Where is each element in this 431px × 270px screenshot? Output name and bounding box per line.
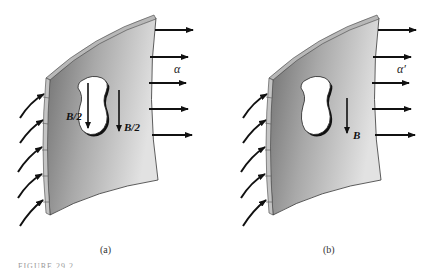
figure-caption-cropped: FIGURE 29.2 ... <box>18 262 268 268</box>
panel-b: B α′ <box>241 15 416 226</box>
hole-a <box>78 76 109 136</box>
panel-a: B/2 B/2 α <box>18 15 193 226</box>
hole-arrow-label: B/2 <box>65 110 82 122</box>
flux-label: α′ <box>397 62 406 76</box>
hole-b <box>301 76 332 136</box>
panel-a-caption: (a) <box>100 244 111 255</box>
flux-label: α <box>174 62 181 76</box>
figure-canvas: B/2 B/2 α B α′ <box>0 0 431 270</box>
sheet-arrow-label: B <box>352 129 360 141</box>
panel-b-caption: (b) <box>323 244 335 255</box>
sheet-arrow-label: B/2 <box>123 121 140 133</box>
